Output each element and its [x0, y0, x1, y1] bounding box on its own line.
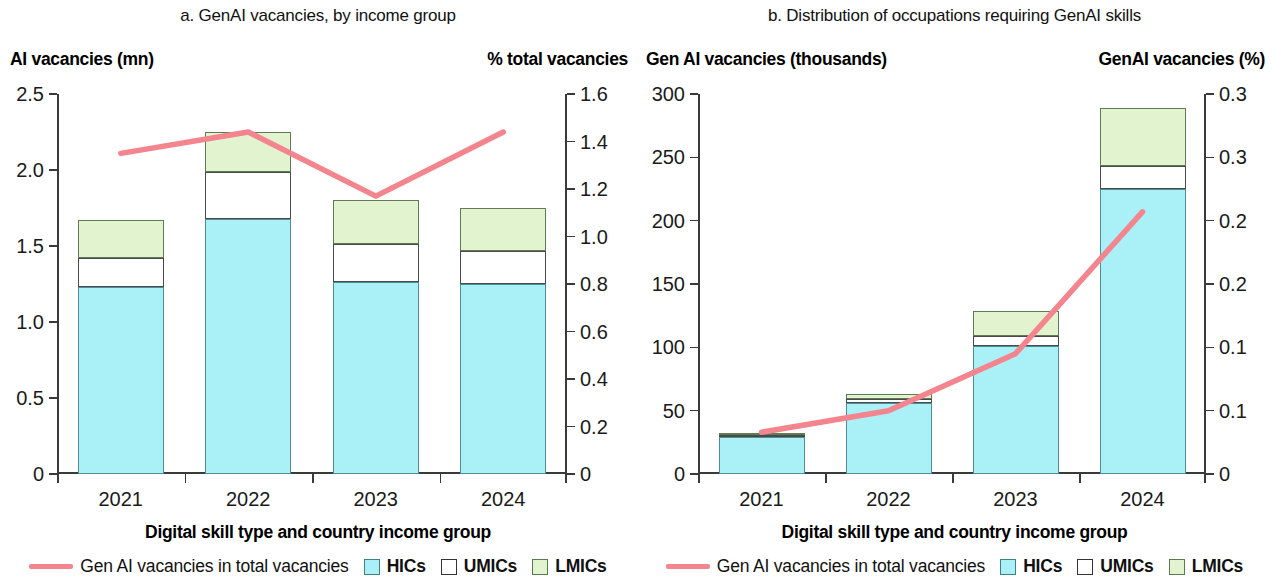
left-axis-tick	[49, 321, 57, 323]
lmics-swatch-icon	[1169, 559, 1185, 575]
bar-segment-hics	[460, 284, 546, 474]
bar-segment-lmics	[719, 433, 805, 435]
right-axis-tick	[567, 331, 575, 333]
left-axis-tick-label: 2.5	[16, 84, 44, 104]
panel-b: b. Distribution of occupations requiring…	[636, 0, 1273, 585]
right-axis-tick-label: 1.4	[580, 132, 608, 152]
left-axis-tick	[690, 347, 698, 349]
x-axis-tick	[825, 474, 827, 483]
legend-item-line: Gen AI vacancies in total vacancies	[666, 556, 985, 577]
stacked-bar	[719, 94, 805, 474]
x-axis-tick-label: 2024	[1120, 488, 1165, 511]
x-axis-tick-label: 2022	[226, 488, 271, 511]
hics-swatch-icon	[1000, 559, 1016, 575]
x-axis-tick	[312, 474, 314, 483]
stacked-bar	[973, 94, 1059, 474]
bar-segment-umics	[460, 251, 546, 284]
right-axis-tick	[567, 141, 575, 143]
stacked-bar	[205, 94, 291, 474]
left-axis-tick	[49, 473, 57, 475]
bar-segment-umics	[205, 172, 291, 219]
right-axis-tick	[1206, 157, 1214, 159]
left-axis-tick-label: 1.0	[16, 312, 44, 332]
legend-label-umics: UMICs	[1100, 556, 1153, 577]
bar-segment-hics	[1100, 189, 1186, 474]
right-axis-tick-label: 0	[1219, 464, 1230, 484]
bar-segment-umics	[719, 435, 805, 437]
x-axis-tick	[952, 474, 954, 483]
legend-item-lmics: LMICs	[1169, 556, 1244, 577]
left-axis-tick-label: 100	[652, 337, 685, 357]
stacked-bar	[460, 94, 546, 474]
legend-label-line: Gen AI vacancies in total vacancies	[80, 556, 348, 577]
right-axis-tick-label: 0.4	[580, 369, 608, 389]
right-axis-tick	[1206, 93, 1214, 95]
left-axis-tick-label: 150	[652, 274, 685, 294]
right-axis-tick-label: 1.2	[580, 179, 608, 199]
bar-segment-umics	[333, 244, 419, 282]
right-axis-tick-label: 1.6	[580, 84, 608, 104]
stacked-bar	[78, 94, 164, 474]
legend-item-hics: HICs	[1000, 556, 1062, 577]
left-axis-tick	[49, 397, 57, 399]
left-axis-tick-label: 250	[652, 147, 685, 167]
line-swatch-icon	[29, 564, 73, 569]
x-axis-tick	[185, 474, 187, 483]
panel-b-legend: Gen AI vacancies in total vacancies HICs…	[636, 556, 1273, 577]
legend-label-line: Gen AI vacancies in total vacancies	[717, 556, 985, 577]
bar-segment-hics	[333, 282, 419, 474]
legend-item-umics: UMICs	[1077, 556, 1153, 577]
panel-a-right-axis-caption: % total vacancies	[487, 49, 628, 70]
right-axis-tick	[567, 378, 575, 380]
left-axis-tick-label: 200	[652, 211, 685, 231]
panel-b-title: b. Distribution of occupations requiring…	[636, 6, 1273, 26]
legend-item-lmics: LMICs	[532, 556, 607, 577]
left-axis-tick	[690, 220, 698, 222]
x-axis-tick	[698, 474, 700, 483]
right-axis-tick-label: 0.8	[580, 274, 608, 294]
left-axis-tick-label: 0	[33, 464, 44, 484]
stacked-bar	[333, 94, 419, 474]
panel-b-right-axis-caption: GenAI vacancies (%)	[1099, 49, 1265, 70]
right-axis-tick	[567, 188, 575, 190]
panel-a-legend: Gen AI vacancies in total vacancies HICs…	[0, 556, 636, 577]
bar-segment-hics	[719, 437, 805, 474]
stacked-bar	[846, 94, 932, 474]
right-axis-tick-label: 0.2	[1219, 274, 1247, 294]
right-axis-tick	[567, 236, 575, 238]
right-axis-tick-label: 0.3	[1219, 147, 1247, 167]
panel-b-left-axis-line	[698, 94, 700, 474]
left-axis-tick	[690, 157, 698, 159]
bar-segment-umics	[973, 336, 1059, 346]
x-axis-tick-label: 2024	[481, 488, 526, 511]
right-axis-tick	[567, 93, 575, 95]
panel-a-x-axis-title: Digital skill type and country income gr…	[0, 522, 636, 543]
right-axis-tick-label: 0.2	[1219, 211, 1247, 231]
legend-item-umics: UMICs	[441, 556, 517, 577]
left-axis-tick-label: 1.5	[16, 236, 44, 256]
bar-segment-hics	[205, 219, 291, 474]
legend-label-umics: UMICs	[464, 556, 517, 577]
panel-a: a. GenAI vacancies, by income group AI v…	[0, 0, 636, 585]
x-axis-tick-label: 2023	[354, 488, 399, 511]
left-axis-tick-label: 300	[652, 84, 685, 104]
legend-item-line: Gen AI vacancies in total vacancies	[29, 556, 348, 577]
legend-item-hics: HICs	[364, 556, 426, 577]
x-axis-tick-label: 2023	[993, 488, 1038, 511]
line-swatch-icon	[666, 564, 710, 569]
panel-a-left-axis-line	[57, 94, 59, 474]
left-axis-tick	[690, 473, 698, 475]
legend-label-lmics: LMICs	[1192, 556, 1244, 577]
panel-a-plot-area: 00.51.01.52.02.500.20.40.60.81.01.21.41.…	[57, 94, 567, 474]
x-axis-tick	[440, 474, 442, 483]
bar-segment-lmics	[846, 394, 932, 399]
figure-container: a. GenAI vacancies, by income group AI v…	[0, 0, 1273, 585]
x-axis-tick	[565, 474, 567, 483]
bar-segment-umics	[78, 258, 164, 287]
x-axis-tick-label: 2022	[866, 488, 911, 511]
legend-label-lmics: LMICs	[555, 556, 607, 577]
bar-segment-umics	[846, 399, 932, 403]
bar-segment-lmics	[1100, 108, 1186, 166]
right-axis-tick	[567, 283, 575, 285]
right-axis-tick	[1206, 410, 1214, 412]
